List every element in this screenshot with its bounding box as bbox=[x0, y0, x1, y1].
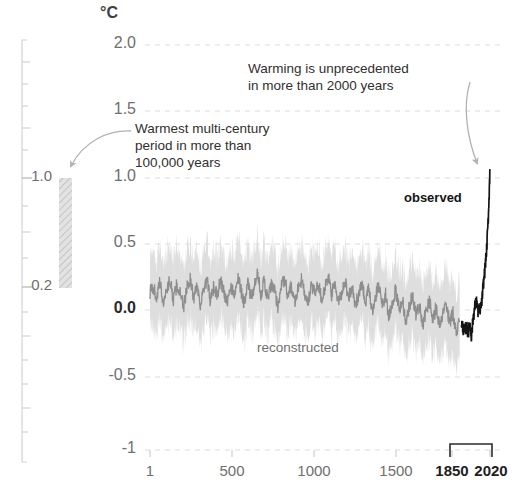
annotation-warmest-period: Warmest multi-century period in more tha… bbox=[135, 120, 295, 171]
x-tick-1500: 1500 bbox=[366, 462, 426, 479]
axis-unit-label: °C bbox=[100, 4, 118, 22]
secondary-tick-0-2: 0.2 bbox=[12, 276, 52, 293]
annotation-left-line3: 100,000 years bbox=[135, 154, 295, 171]
observed-line bbox=[461, 169, 490, 341]
y-tick-1-5: 1.5 bbox=[88, 100, 136, 118]
x-tick-1000: 1000 bbox=[284, 462, 344, 479]
x-tick-2020: 2020 bbox=[461, 462, 521, 479]
arrow-to-warmest-bar bbox=[71, 131, 131, 166]
y-tick-neg1: -1 bbox=[88, 439, 136, 457]
secondary-axis bbox=[22, 40, 32, 462]
annotation-right-line1: Warming is unprecedented bbox=[248, 60, 463, 77]
warmest-period-bar bbox=[59, 178, 72, 288]
annotation-right-line2: in more than 2000 years bbox=[248, 77, 463, 94]
chart-figure: °C 2.0 1.5 1.0 0.5 0.0 -0.5 -1 1.0 0.2 1… bbox=[0, 0, 527, 496]
observed-series-label: observed bbox=[404, 190, 462, 205]
arrow-to-observed bbox=[466, 82, 477, 163]
y-tick-0-0: 0.0 bbox=[88, 299, 136, 317]
secondary-tick-1-0: 1.0 bbox=[12, 167, 52, 184]
annotation-left-line2: period in more than bbox=[135, 137, 295, 154]
annotation-warming-unprecedented: Warming is unprecedented in more than 20… bbox=[248, 60, 463, 94]
y-tick-1-0: 1.0 bbox=[88, 167, 136, 185]
reconstructed-series-label: reconstructed bbox=[257, 340, 339, 355]
y-tick-2-0: 2.0 bbox=[88, 34, 136, 52]
gridlines bbox=[145, 45, 500, 450]
x-axis-ticks bbox=[150, 450, 490, 457]
y-tick-0-5: 0.5 bbox=[88, 233, 136, 251]
y-tick-neg0-5: -0.5 bbox=[88, 366, 136, 384]
x-tick-1: 1 bbox=[120, 462, 180, 479]
annotation-left-line1: Warmest multi-century bbox=[135, 120, 295, 137]
x-tick-500: 500 bbox=[202, 462, 262, 479]
